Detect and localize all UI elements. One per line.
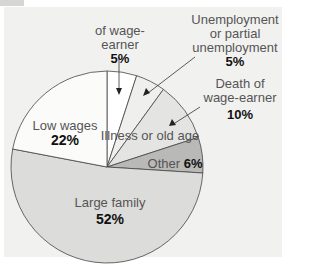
- label-unemployment: Unemployment or partial unemployment 5%: [190, 13, 280, 69]
- label-death: Death of wage-earner 10%: [200, 77, 280, 122]
- label-text: Other: [148, 156, 181, 171]
- label-text: Unemployment: [190, 13, 280, 27]
- label-pct: 5%: [80, 52, 160, 66]
- label-text: Large family: [65, 196, 155, 210]
- label-text: Low wages: [30, 119, 100, 133]
- label-text: or partial: [190, 27, 280, 41]
- label-wage-earner: of wage-earner 5%: [80, 24, 160, 66]
- label-text: of wage-earner: [80, 24, 160, 52]
- label-pct: 5%: [190, 55, 280, 69]
- label-pct: 10%: [200, 108, 280, 122]
- label-text: wage-earner: [200, 91, 280, 105]
- label-low-wages: Low wages 22%: [30, 119, 100, 147]
- label-large-family: Large family 52%: [65, 196, 155, 226]
- label-illness: Illness or old age: [100, 129, 200, 143]
- label-pct: 22%: [30, 133, 100, 147]
- label-text: unemployment: [190, 41, 280, 55]
- label-text: Illness or old age: [101, 128, 199, 143]
- label-pct: 52%: [65, 212, 155, 226]
- label-other: Other 6%: [145, 157, 205, 171]
- label-pct: 6%: [184, 156, 203, 171]
- label-text: Death of: [200, 77, 280, 91]
